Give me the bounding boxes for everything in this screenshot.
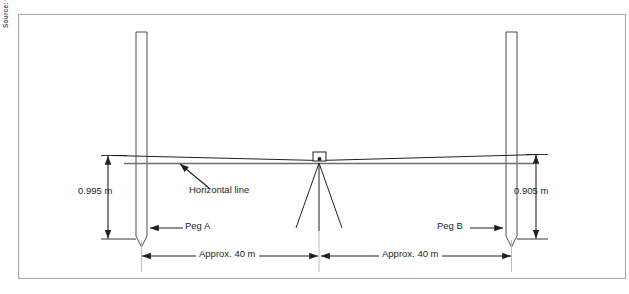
level-instrument-icon xyxy=(313,152,326,161)
peg-stake-icon-left xyxy=(136,32,147,247)
dimension-height-right xyxy=(517,155,548,240)
label-peg-a: Peg A xyxy=(185,221,210,231)
peg-stake-icon-right xyxy=(506,32,517,247)
diagram-illustration xyxy=(0,0,629,294)
label-distance-right: Approx. 40 m xyxy=(379,249,442,259)
label-horizontal-line: Horizontal line xyxy=(189,185,249,195)
label-height-right: 0.905 m xyxy=(514,186,548,196)
dimension-height-left xyxy=(101,156,136,240)
tripod-icon xyxy=(296,163,342,231)
label-distance-left: Approx. 40 m xyxy=(196,249,259,259)
figure-root: Source: © Cengage xyxy=(0,0,629,294)
label-height-left: 0.995 m xyxy=(78,186,112,196)
label-peg-b: Peg B xyxy=(437,221,463,231)
